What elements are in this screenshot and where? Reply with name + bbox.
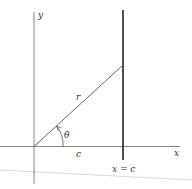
- angle-label: θ: [64, 130, 70, 140]
- page-edge-artifact: [0, 170, 192, 180]
- ray-label: r: [76, 92, 81, 102]
- vertical-line-label: x = c: [112, 164, 135, 174]
- y-axis-label: y: [37, 10, 44, 20]
- ray-r: [34, 65, 123, 147]
- x-axis-label: x: [174, 148, 179, 158]
- polar-line-diagram: y x r θ c x = c: [0, 0, 192, 189]
- segment-label: c: [76, 149, 81, 159]
